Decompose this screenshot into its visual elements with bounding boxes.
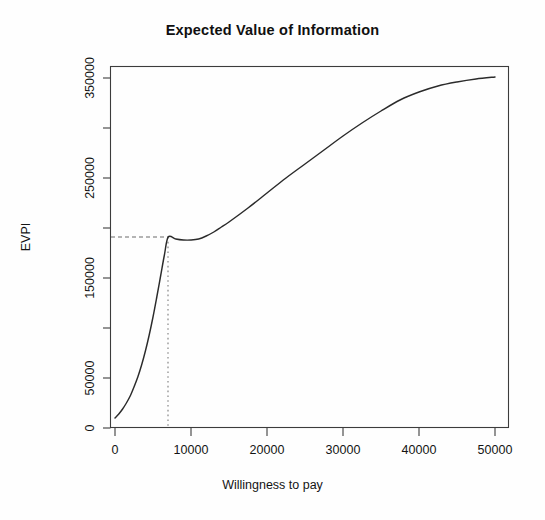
y-tick-label-150000: 150000 bbox=[83, 257, 97, 299]
chart-figure: Expected Value of Information 0 50000 15… bbox=[0, 0, 545, 520]
y-axis-tick-labels: 0 50000 150000 250000 350000 bbox=[83, 57, 97, 431]
y-tick-label-50000: 50000 bbox=[83, 361, 97, 396]
plot-frame bbox=[111, 67, 509, 428]
x-tick-label-30000: 30000 bbox=[326, 443, 361, 457]
x-axis-ticks bbox=[115, 428, 495, 436]
x-tick-label-20000: 20000 bbox=[250, 443, 285, 457]
x-tick-label-10000: 10000 bbox=[174, 443, 209, 457]
x-tick-label-50000: 50000 bbox=[478, 443, 513, 457]
y-axis-ticks bbox=[103, 78, 111, 428]
y-tick-label-350000: 350000 bbox=[83, 57, 97, 99]
x-tick-label-40000: 40000 bbox=[402, 443, 437, 457]
y-axis-title: EVPI bbox=[19, 177, 33, 297]
x-tick-label-0: 0 bbox=[112, 443, 119, 457]
chart-plot-area: 0 50000 150000 250000 350000 0 10000 200… bbox=[0, 0, 545, 520]
y-tick-label-250000: 250000 bbox=[83, 157, 97, 199]
evpi-curve bbox=[115, 77, 495, 418]
x-axis-title: Willingness to pay bbox=[0, 478, 545, 492]
x-axis-tick-labels: 0 10000 20000 30000 40000 50000 bbox=[112, 443, 513, 457]
y-tick-label-0: 0 bbox=[83, 424, 97, 431]
